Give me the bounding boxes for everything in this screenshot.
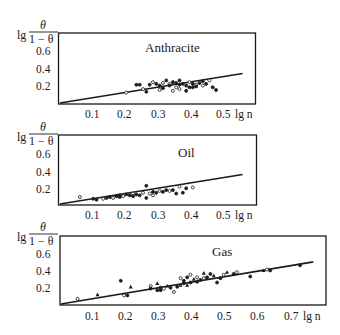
x-tick: 0.4 (184, 209, 199, 221)
data-point (232, 272, 235, 275)
data-point (123, 294, 126, 297)
data-point (148, 192, 151, 195)
fit-line (60, 73, 243, 103)
data-point (148, 83, 151, 86)
panel-gas: lg θ 1 − θ Gas 0.6 0.4 0.2 0.1 0.2 0.3 0… (17, 220, 326, 323)
data-point (171, 189, 174, 192)
y-axis-label-prefix: lg (17, 28, 26, 42)
y-tick: 0.4 (36, 63, 51, 75)
fit-line (60, 174, 243, 204)
data-point (188, 81, 191, 84)
data-point (201, 80, 204, 83)
data-point (188, 86, 191, 89)
data-point (191, 82, 194, 85)
data-point (199, 278, 202, 281)
data-point (76, 297, 79, 300)
data-point (202, 277, 205, 280)
data-point (182, 279, 185, 282)
data-point (168, 84, 171, 87)
x-tick: 0.7 (284, 310, 299, 322)
fit-line (61, 262, 313, 304)
plot-frame (60, 236, 326, 305)
x-tick: 0.2 (117, 108, 132, 120)
data-point (151, 81, 154, 84)
data-point (112, 196, 115, 199)
data-point (156, 289, 159, 292)
data-point (125, 193, 128, 196)
data-point (92, 197, 95, 200)
data-point (108, 196, 111, 199)
data-point (135, 193, 138, 196)
data-point (178, 83, 181, 86)
data-point (191, 186, 194, 189)
data-point (205, 82, 208, 85)
data-point (142, 88, 145, 91)
data-point (145, 90, 148, 93)
data-point (222, 273, 225, 276)
data-point (138, 194, 141, 197)
data-point (189, 273, 192, 276)
data-point-triangle (212, 274, 216, 278)
data-point (181, 82, 184, 85)
panel-title: Oil (178, 145, 195, 160)
y-axis-label-numerator: θ (40, 18, 46, 32)
data-point (299, 264, 302, 267)
data-point (165, 189, 168, 192)
data-point (195, 85, 198, 88)
data-point (125, 91, 128, 94)
data-point (185, 89, 188, 92)
y-tick: 0.2 (36, 80, 51, 92)
data-point (201, 84, 204, 87)
data-point (105, 196, 108, 199)
y-axis-label-prefix: lg (17, 230, 26, 244)
data-point (181, 191, 184, 194)
data-point-triangle (202, 271, 206, 275)
x-tick: 0.5 (217, 310, 232, 322)
data-point (162, 287, 165, 290)
data-point (175, 192, 178, 195)
data-point-triangle (155, 281, 159, 285)
data-point (186, 276, 189, 279)
y-tick: 0.2 (36, 282, 51, 294)
y-tick: 0.6 (36, 248, 51, 260)
data-point (172, 290, 175, 293)
data-point (191, 86, 194, 89)
data-point (176, 285, 179, 288)
data-point (159, 286, 162, 289)
data-point (161, 87, 164, 90)
data-point (122, 195, 125, 198)
data-point (216, 281, 219, 284)
data-point (161, 81, 164, 84)
data-point (119, 279, 122, 282)
data-point (269, 269, 272, 272)
x-tick: 0.1 (85, 209, 100, 221)
data-point (265, 268, 268, 271)
data-point (211, 86, 214, 89)
data-point (118, 196, 121, 199)
data-point (78, 196, 81, 199)
data-point-triangle (192, 277, 196, 281)
data-point (142, 191, 145, 194)
x-tick: 0.6 (250, 310, 265, 322)
panel-title: Anthracite (145, 40, 200, 55)
x-axis-label: lg n (303, 310, 321, 323)
data-point (196, 276, 199, 279)
data-point (196, 280, 199, 283)
data-point (185, 187, 188, 190)
data-point (115, 195, 118, 198)
data-point-triangle (96, 293, 100, 297)
data-point (171, 81, 174, 84)
panel-oil: lg θ 1 − θ Oil 0.6 0.4 0.2 0.1 0.2 0.3 0… (17, 120, 257, 222)
data-point (249, 275, 252, 278)
data-point (95, 198, 98, 201)
y-axis-label-denominator: 1 − θ (29, 134, 54, 148)
data-point (178, 185, 181, 188)
data-point (171, 89, 174, 92)
plot-frame (59, 135, 257, 205)
data-point (198, 81, 201, 84)
data-point (132, 195, 135, 198)
x-tick: 0.2 (118, 310, 133, 322)
x-tick: 0.4 (184, 310, 199, 322)
data-point (158, 84, 161, 87)
data-point-triangle (225, 270, 229, 274)
